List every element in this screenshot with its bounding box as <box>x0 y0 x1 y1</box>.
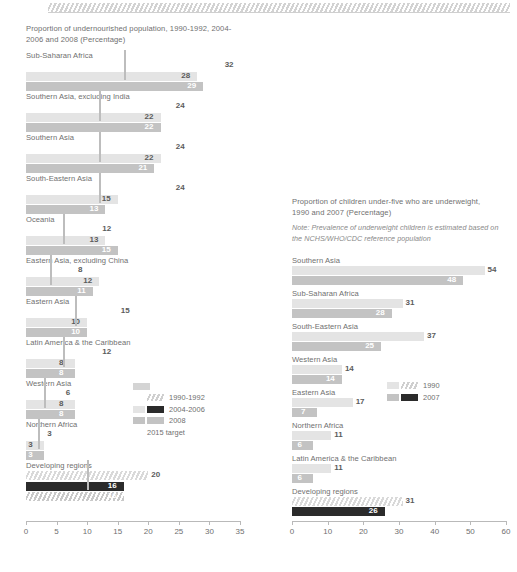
bar-value-label: 12 <box>102 224 111 233</box>
bars-container: 242221 <box>0 143 258 173</box>
bars-container: 121315 <box>0 225 258 255</box>
bar <box>26 113 161 122</box>
bar-value-label: 8 <box>78 265 82 274</box>
bars-container: 151010 <box>0 307 258 337</box>
axis-tick-label: 30 <box>395 527 404 536</box>
bars-container: 3126 <box>266 497 516 516</box>
legend-row: 2007 <box>387 393 440 402</box>
axis-tick <box>148 521 149 525</box>
axis-tick <box>363 521 364 525</box>
bar-value-label: 24 <box>176 183 185 192</box>
bar <box>292 299 403 308</box>
axis-tick <box>470 521 471 525</box>
category-label: Sub-Saharan Africa <box>0 50 258 61</box>
axis-tick-label: 30 <box>205 527 214 536</box>
bar-row-2007: 25 <box>292 342 516 351</box>
bar-value-label: 11 <box>334 430 342 439</box>
bar-group: Eastern Asia151010 <box>0 296 258 338</box>
bar-row-2007: 6 <box>292 441 516 450</box>
axis-tick <box>179 521 180 525</box>
legend-swatch-b <box>401 382 418 389</box>
bar-row-2008: 15 <box>26 246 258 255</box>
bar-value-label: 26 <box>369 506 378 515</box>
bar-group: South-Eastern Asia241513 <box>0 173 258 215</box>
axis-tick-label: 5 <box>54 527 58 536</box>
axis-tick <box>399 521 400 525</box>
bar-value-label: 3 <box>28 450 32 459</box>
bar-row-2008: 10 <box>26 328 258 337</box>
bar-row-2008: 29 <box>26 82 258 91</box>
bar-row-1990: 8 <box>26 266 258 277</box>
legend-swatch-b <box>133 383 150 390</box>
bar-row-1990: 14 <box>292 365 516 374</box>
bar-value-label: 8 <box>59 409 63 418</box>
bar-value-label: 15 <box>121 306 130 315</box>
bar-row-2008: 21 <box>26 164 258 173</box>
bar <box>292 266 485 275</box>
axis-tick <box>87 521 88 525</box>
axis-tick-label: 15 <box>113 527 122 536</box>
bar-value-label: 15 <box>102 245 111 254</box>
bar-value-label: 10 <box>71 327 80 336</box>
chart-title-undernourished: Proportion of undernourished population,… <box>26 23 241 45</box>
bar-value-label: 8 <box>59 368 63 377</box>
bar <box>292 365 342 374</box>
category-label: South-Eastern Asia <box>266 321 516 332</box>
axis-tick <box>209 521 210 525</box>
category-label: Southern Asia <box>0 132 258 143</box>
category-label: Southern Asia, excluding India <box>0 91 258 102</box>
category-label: Eastern Asia, excluding China <box>0 255 258 266</box>
bar-group: Latin America & the Caribbean1288 <box>0 337 258 379</box>
bar-row-1990: 54 <box>292 266 516 275</box>
bar <box>26 400 75 409</box>
bars-container: 322829 <box>0 61 258 91</box>
bar <box>26 164 154 173</box>
bar-value-label: 3 <box>47 429 51 438</box>
bar-row-2004-2006: 16 <box>26 482 258 491</box>
legend-label: 2004-2006 <box>169 405 205 414</box>
legend-row: 2004-2006 <box>133 405 205 414</box>
bar-row-1990: 24 <box>26 184 258 195</box>
bar-group: Western Asia688 <box>0 378 258 420</box>
axis-tick <box>506 521 507 525</box>
legend-label: 1990 <box>423 381 440 390</box>
bar-value-label: 22 <box>145 112 154 121</box>
bar-group: Sub-Saharan Africa3128 <box>266 288 516 319</box>
legend-row: 2008 <box>133 416 205 425</box>
bars-container: 116 <box>266 464 516 483</box>
bar-row-2007: 6 <box>292 474 516 483</box>
category-label: Northern Africa <box>266 420 516 431</box>
bar <box>292 474 313 483</box>
axis-tick <box>328 521 329 525</box>
bar-value-label: 29 <box>187 81 196 90</box>
bar <box>26 410 75 419</box>
bar-row-1990: 31 <box>292 299 516 308</box>
bars-container: 116 <box>266 431 516 450</box>
bar-group: Southern Asia5448 <box>266 255 516 286</box>
bar-value-label: 17 <box>356 397 365 406</box>
legend-label: 2007 <box>423 393 440 402</box>
bar-value-label: 6 <box>297 473 301 482</box>
bar-row-2004-2006: 8 <box>26 359 258 368</box>
category-label: Western Asia <box>266 354 516 365</box>
bar-value-label: 3 <box>28 440 32 449</box>
bar-row-1990: 32 <box>26 61 258 72</box>
bar-row-2007: 26 <box>292 507 516 516</box>
bar-row-1990: 24 <box>26 102 258 113</box>
bars-container: 242222 <box>0 102 258 132</box>
legend-row: 1990 <box>387 381 440 390</box>
bars-container: 688 <box>0 389 258 419</box>
target-marker-2015 <box>44 378 46 408</box>
bar-group: Northern Africa333 <box>0 419 258 461</box>
bar-value-label: 28 <box>376 308 385 317</box>
bar-value-label: 31 <box>406 496 415 505</box>
target-marker-2015 <box>87 460 89 490</box>
axis-tick <box>240 521 241 525</box>
bar-row-1990: 24 <box>26 143 258 154</box>
bars-container: 5448 <box>266 266 516 285</box>
bar-value-label: 14 <box>345 364 354 373</box>
bar-value-label: 31 <box>406 298 415 307</box>
bar-row-2004-2006: 13 <box>26 236 258 245</box>
legend-label: 1990-1992 <box>169 393 205 402</box>
chart-note-underweight: Note: Prevalence of underweight children… <box>292 223 505 244</box>
